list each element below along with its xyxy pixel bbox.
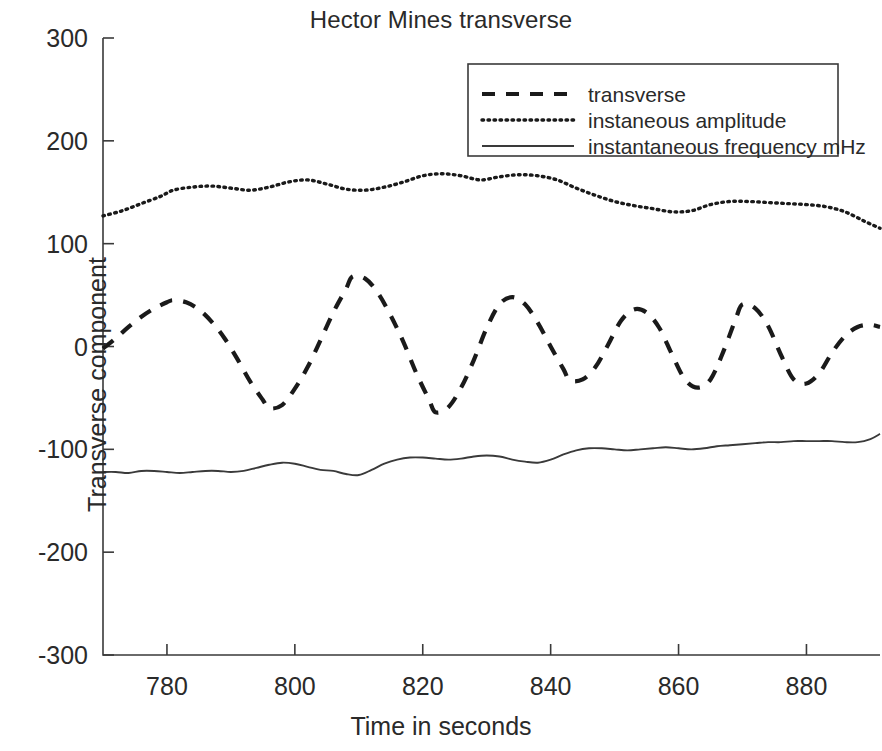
x-tick-label: 780 bbox=[146, 672, 188, 700]
series-line-dotted bbox=[103, 174, 880, 229]
series-line-solid bbox=[103, 434, 880, 475]
legend-label: transverse bbox=[588, 83, 686, 106]
x-tick-label: 840 bbox=[530, 672, 572, 700]
x-tick-label: 800 bbox=[274, 672, 316, 700]
y-tick-label: -200 bbox=[38, 538, 88, 566]
x-axis-ticks: 780800820840860880 bbox=[146, 644, 827, 700]
x-tick-label: 820 bbox=[402, 672, 444, 700]
x-tick-label: 880 bbox=[786, 672, 828, 700]
x-tick-label: 860 bbox=[658, 672, 700, 700]
y-tick-label: -100 bbox=[38, 435, 88, 463]
y-tick-label: -300 bbox=[38, 641, 88, 669]
chart-title: Hector Mines transverse bbox=[0, 6, 882, 34]
y-axis-label: Transverse component bbox=[83, 75, 112, 695]
legend-label: instantaneous frequency mHz bbox=[588, 135, 866, 158]
data-series-group bbox=[103, 174, 880, 476]
chart-figure: Hector Mines transverse 3002001000-100-2… bbox=[0, 0, 882, 751]
x-axis-label: Time in seconds bbox=[0, 712, 882, 741]
plot-area: 3002001000-100-200-300 78080082084086088… bbox=[0, 0, 882, 751]
chart-legend: transverseinstaneous amplitudeinstantane… bbox=[468, 64, 866, 158]
legend-label: instaneous amplitude bbox=[588, 109, 786, 132]
series-line-dashed bbox=[103, 276, 880, 413]
